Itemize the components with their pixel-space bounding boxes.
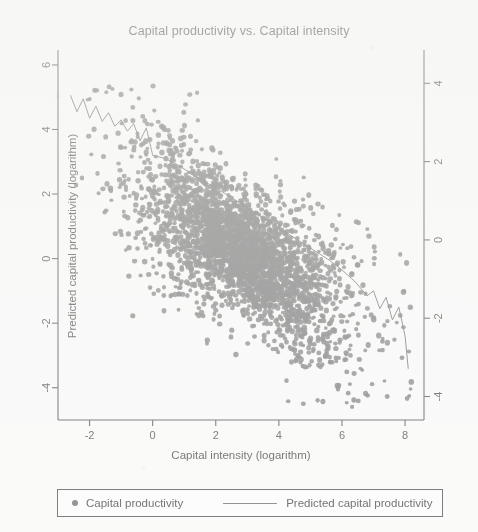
scatter-point (279, 317, 284, 321)
scatter-point (182, 219, 187, 224)
scatter-point (265, 214, 270, 219)
scatter-point (202, 170, 207, 174)
scatter-point (181, 142, 186, 147)
scatter-point (350, 405, 354, 409)
legend-marker-line-icon (223, 503, 277, 504)
scatter-point (205, 338, 210, 343)
axis-tick-label: -2 (40, 318, 52, 328)
scatter-point (268, 313, 273, 317)
scatter-point (404, 260, 409, 266)
scatter-point (86, 98, 90, 102)
scatter-point (135, 246, 140, 251)
scatter-point (324, 341, 329, 346)
scatter-point (240, 219, 245, 223)
scatter-point (333, 342, 338, 346)
scatter-point (194, 210, 199, 215)
scatter-point (199, 310, 205, 316)
scatter-point (329, 360, 334, 365)
scatter-point (262, 282, 266, 286)
scatter-point (166, 262, 171, 267)
scatter-point (302, 175, 306, 179)
scatter-point (154, 271, 159, 275)
scatter-point (191, 273, 196, 279)
scatter-point (177, 260, 182, 264)
scatter-point (178, 217, 183, 221)
scatter-point (109, 199, 113, 203)
scatter-point (265, 279, 269, 283)
scatter-point (405, 396, 410, 401)
scatter-point (230, 187, 234, 191)
scatter-point (162, 185, 167, 190)
scatter-point (339, 300, 343, 304)
x-axis-label: Capital intensity (logarithm) (171, 449, 311, 461)
scatter-point (365, 227, 369, 231)
axis-tick-label: -4 (40, 383, 52, 393)
scatter-point (239, 187, 243, 191)
scatter-point (232, 284, 236, 288)
scatter-point (148, 172, 153, 177)
scatter-point (366, 233, 371, 238)
scatter-point (308, 268, 313, 273)
scatter-point (355, 262, 360, 267)
scatter-point (335, 383, 340, 389)
scatter-point (162, 285, 166, 290)
scatter-point (247, 239, 252, 244)
scatter-point (220, 176, 225, 181)
scatter-point (293, 221, 297, 226)
scatter-point (312, 322, 316, 326)
scatter-point (150, 177, 155, 182)
scatter-point (156, 218, 161, 223)
scatter-point (351, 291, 355, 294)
scatter-point (226, 259, 231, 264)
scatter-point (229, 300, 233, 304)
scatter-point (289, 318, 293, 322)
scatter-point (210, 175, 215, 179)
scatter-point (283, 246, 287, 250)
scatter-point (301, 197, 305, 201)
scatter-point (286, 314, 291, 318)
scatter-point (174, 234, 178, 238)
scatter-point (164, 193, 169, 199)
scatter-point (162, 233, 166, 238)
scatter-point (130, 313, 135, 318)
scatter-point (193, 260, 197, 264)
scatter-point (132, 259, 137, 264)
scatter-point (243, 177, 247, 181)
scatter-point (297, 283, 302, 288)
scatter-point (337, 213, 341, 217)
scatter-point (187, 217, 191, 222)
scatter-point (205, 287, 209, 291)
scatter-point (156, 120, 161, 124)
scatter-point (183, 253, 188, 259)
scatter-point (204, 192, 209, 198)
scatter-point (279, 240, 284, 245)
scatter-point (217, 313, 222, 318)
scatter-point (131, 147, 136, 152)
scatter-point (151, 195, 155, 199)
scatter-point (407, 350, 411, 354)
scatter-point (287, 260, 291, 264)
scatter-point (329, 242, 335, 248)
scatter-point (333, 280, 338, 285)
scatter-point (213, 272, 218, 277)
scatter-point (117, 168, 122, 173)
scatter-point (195, 90, 199, 95)
scatter-point (308, 251, 313, 256)
scatter-point (281, 323, 286, 327)
scatter-point (151, 291, 156, 295)
scatter-point (307, 303, 311, 307)
scatter-point (200, 147, 204, 151)
scatter-point (166, 249, 171, 254)
scatter-point (195, 159, 199, 163)
scatter-point (101, 154, 106, 159)
scatter-point (354, 304, 358, 307)
scatter-point (196, 187, 201, 193)
scatter-point (259, 188, 264, 193)
scatter-point (104, 181, 109, 187)
scatter-point (144, 149, 149, 155)
scatter-point (297, 277, 302, 282)
scatter-point (224, 202, 229, 207)
scatter-point (202, 298, 206, 302)
scatter-point (346, 391, 351, 396)
scatter-point (148, 161, 152, 165)
